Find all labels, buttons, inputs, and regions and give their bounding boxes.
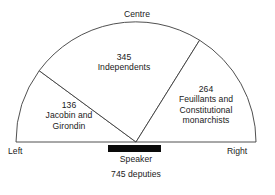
wedge-label-jacobin-girondin: 136 Jacobin and Girondin: [46, 100, 93, 131]
speaker-bar: [108, 145, 161, 152]
wedge-label-independents: 345 Independents: [98, 52, 151, 73]
wedge-name-feuillants-line3: monarchists: [179, 115, 233, 125]
wedge-name-feuillants-line2: Constitutional: [179, 105, 233, 115]
wedge-name-jacobin-girondin-line1: Jacobin and: [46, 110, 93, 120]
wedge-name-feuillants-line1: Feuillants and: [179, 94, 233, 104]
semicircle-diagram: [0, 0, 275, 195]
speaker-label: Speaker: [120, 154, 152, 164]
axis-label-right: Right: [227, 146, 247, 156]
wedge-count-independents: 345: [98, 52, 151, 62]
wedge-label-feuillants: 264 Feuillants and Constitutional monarc…: [179, 84, 233, 126]
axis-label-centre: Centre: [124, 9, 150, 19]
seating-chart-figure: Centre Left Right Speaker 745 deputies 3…: [0, 0, 275, 195]
wedge-name-independents: Independents: [98, 62, 151, 72]
wedge-count-jacobin-girondin: 136: [46, 100, 93, 110]
total-deputies-label: 745 deputies: [111, 169, 161, 179]
axis-label-left: Left: [8, 146, 23, 156]
wedge-name-jacobin-girondin-line2: Girondin: [46, 121, 93, 131]
wedge-count-feuillants: 264: [179, 84, 233, 94]
